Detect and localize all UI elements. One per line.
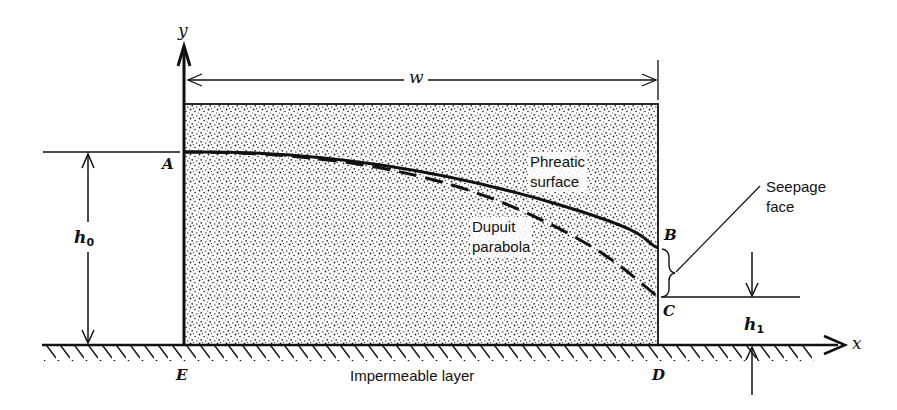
point-c-label: C [663,304,675,319]
h1-label: h1 [744,316,764,335]
x-axis-label: x [852,335,862,352]
impermeable-layer-label: Impermeable layer [350,368,474,383]
point-e-label: E [176,368,187,383]
seepage-leader-line [676,186,760,272]
point-a-label: A [162,157,174,172]
phreatic-label-line2: surface [530,172,585,192]
seepage-label-line2: face [766,197,826,217]
h1-subscript: 1 [756,323,764,336]
dupuit-label-line2: parabola [472,237,530,257]
h0-main: h [74,227,86,247]
h1-main: h [744,314,756,334]
seepage-face-label: Seepage face [766,177,826,217]
dupuit-parabola-label: Dupuit parabola [470,217,532,257]
seepage-diagram: y x w A B C D E h0 h1 Phreatic surface D… [0,0,897,410]
point-d-label: D [652,368,665,383]
diagram-graphics [0,0,897,410]
width-label: w [409,69,424,86]
soil-region [184,104,658,345]
ground-hatching [44,346,814,361]
seepage-label-line1: Seepage [766,177,826,197]
phreatic-surface-label: Phreatic surface [528,152,587,192]
y-axis-label: y [178,22,188,39]
phreatic-label-line1: Phreatic [530,152,585,172]
h0-label: h0 [74,229,94,248]
point-b-label: B [664,228,677,243]
dupuit-label-line1: Dupuit [472,217,530,237]
seepage-face-brace [662,249,675,297]
h0-subscript: 0 [86,236,94,249]
